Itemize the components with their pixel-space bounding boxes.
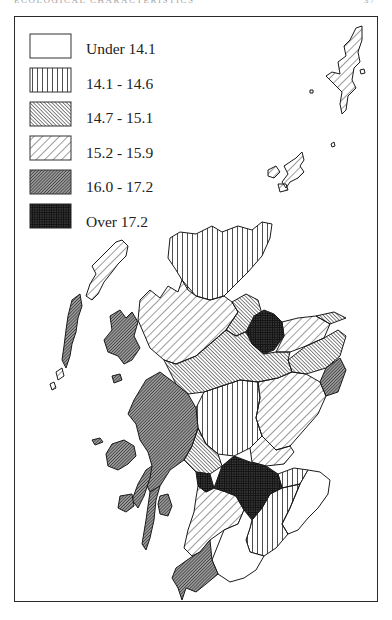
region-foula: [331, 142, 335, 147]
region-barra: [50, 368, 64, 390]
legend-swatches: [30, 34, 71, 228]
region-angus: [256, 372, 326, 450]
region-mull: [106, 440, 136, 470]
dark-diagonal-hatch-swatch-icon: [30, 170, 71, 194]
scotland-map: [0, 0, 392, 620]
legend-label: 15.2 - 15.9: [86, 144, 153, 162]
region-small-isles: [112, 374, 122, 383]
region-arran: [158, 494, 172, 516]
region-shetland: [326, 26, 362, 114]
region-tiree: [92, 438, 103, 445]
crosshatch-swatch-icon: [30, 204, 71, 228]
region-fair-isle: [310, 90, 313, 93]
region-orkney-2: [268, 166, 280, 178]
region-skye: [104, 310, 140, 364]
region-uists: [62, 294, 82, 368]
region-lewis-harris: [86, 240, 128, 300]
region-orkney-3: [278, 184, 288, 192]
region-shetland-islet: [360, 69, 365, 74]
legend-label: Under 14.1: [86, 40, 156, 58]
region-kintyre: [142, 486, 160, 550]
dense-diagonal-hatch-swatch-icon: [30, 102, 71, 126]
vertical-hatch-swatch-icon: [30, 68, 71, 92]
region-islay: [118, 494, 134, 512]
legend-label: 14.7 - 15.1: [86, 109, 153, 127]
blank-swatch-icon: [30, 34, 71, 58]
wide-diagonal-hatch-swatch-icon: [30, 136, 71, 160]
legend-label: Over 17.2: [86, 213, 148, 231]
legend-label: 16.0 - 17.2: [86, 178, 153, 196]
legend-label: 14.1 - 14.6: [86, 75, 153, 93]
region-orkney: [282, 152, 304, 188]
